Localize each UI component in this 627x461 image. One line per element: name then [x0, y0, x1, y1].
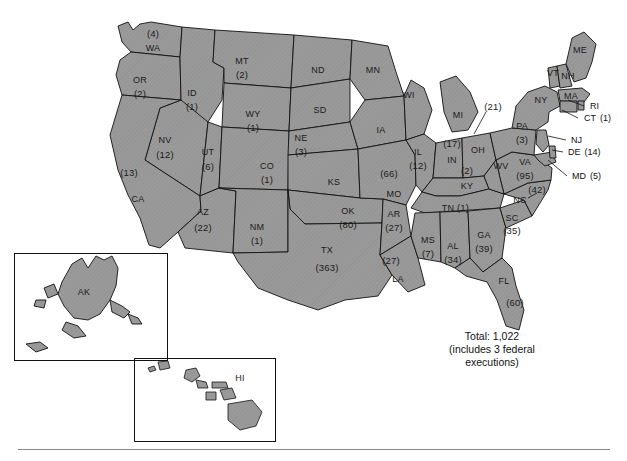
state-label-mt: MT — [235, 56, 248, 66]
state-WI — [404, 80, 432, 140]
total-note: (includes 3 federal executions) — [425, 343, 560, 369]
callout-de-count: (14) — [585, 147, 601, 157]
state-count-id: (1) — [186, 102, 198, 112]
state-label-ny: NY — [535, 95, 548, 105]
state-MI — [440, 76, 478, 132]
state-label-nh: NH — [561, 71, 574, 81]
state-IA — [350, 96, 406, 149]
state-count-wa: (4) — [147, 29, 159, 39]
state-count-ky: (2) — [461, 166, 473, 176]
state-label-il: IL — [414, 147, 422, 157]
state-label-in: IN — [447, 155, 456, 165]
state-count-mo: (66) — [380, 169, 398, 179]
callout-ct-label: CT — [584, 113, 596, 123]
state-label-ga: GA — [477, 230, 490, 240]
state-count-ga: (39) — [475, 244, 493, 254]
state-count-oh: (21) — [484, 102, 502, 112]
state-label-sd: SD — [314, 105, 327, 115]
state-count-co: (1) — [261, 175, 273, 185]
callout-nj-label: NJ — [571, 135, 582, 145]
state-count-ut: (6) — [202, 162, 214, 172]
inset-label-ak: AK — [78, 287, 90, 297]
state-MT — [213, 30, 294, 88]
state-count-ms: (7) — [422, 249, 434, 259]
state-count-nv: (12) — [156, 150, 174, 160]
state-count-ca: (13) — [120, 168, 138, 178]
state-label-ky: KY — [461, 181, 473, 191]
state-count-fl: (60) — [506, 298, 524, 308]
state-label-nc: NC — [513, 195, 526, 205]
callout-ri: RI — [590, 101, 599, 111]
callout-de: DE(14) — [568, 147, 601, 157]
total-label: Total: 1,022 — [425, 330, 560, 343]
callout-nj: NJ — [571, 135, 582, 145]
state-count-in: (17) — [443, 139, 461, 149]
state-label-va: VA — [519, 157, 531, 167]
state-label-vt: VT — [547, 68, 559, 78]
state-label-ma: MA — [564, 91, 578, 101]
state-label-wi: WI — [403, 90, 414, 100]
state-count-va: (95) — [516, 171, 534, 181]
state-FL — [455, 258, 524, 330]
footer-rule — [18, 449, 610, 450]
state-label-wy: WY — [246, 109, 261, 119]
inset-label-hi: HI — [235, 373, 244, 383]
state-count-nm: (1) — [251, 236, 263, 246]
figure-root: WA(4)OR(2)ID(1)MT(2)WY(1)NV(12)UT(6)CO(1… — [0, 0, 627, 461]
state-label-nv: NV — [159, 135, 172, 145]
state-label-ut: UT — [202, 147, 214, 157]
state-count-mt: (2) — [236, 70, 248, 80]
state-count-la: (27) — [382, 256, 400, 266]
leader-nj — [548, 136, 566, 140]
state-CO — [219, 127, 289, 190]
state-label-pa: PA — [516, 121, 528, 131]
callout-ct: CT(1) — [584, 113, 611, 123]
state-count-or: (2) — [134, 89, 146, 99]
state-label-id: ID — [187, 88, 196, 98]
callout-md-label: MD — [572, 171, 586, 181]
state-label-mi: MI — [453, 110, 463, 120]
state-NJ — [536, 130, 549, 152]
callout-md: MD(5) — [572, 171, 601, 181]
callout-ct-count: (1) — [600, 113, 611, 123]
state-label-nd: ND — [311, 65, 324, 75]
state-label-al: AL — [447, 241, 458, 251]
state-label-co: CO — [260, 161, 274, 171]
state-label-ca: CA — [132, 194, 145, 204]
hawaii-inset-frame — [134, 358, 276, 442]
state-label-ia: IA — [377, 125, 386, 135]
state-label-ok: OK — [341, 206, 354, 216]
state-label-fl: FL — [499, 276, 510, 286]
state-label-la: LA — [392, 274, 403, 284]
alaska-inset-frame — [14, 253, 168, 361]
state-count-sc: (35) — [503, 226, 521, 236]
state-count-ar: (27) — [385, 223, 403, 233]
state-label-mo: MO — [387, 189, 402, 199]
state-label-wv: WV — [494, 161, 509, 171]
state-label-ks: KS — [328, 177, 340, 187]
total-block: Total: 1,022 (includes 3 federal executi… — [425, 330, 560, 369]
state-count-tx: (363) — [315, 263, 338, 273]
callout-md-count: (5) — [590, 171, 601, 181]
state-label-mn: MN — [366, 65, 380, 75]
state-label-ms: MS — [421, 235, 435, 245]
callout-ri-label: RI — [590, 101, 599, 111]
state-count-al: (34) — [444, 255, 462, 265]
state-DE — [549, 146, 556, 158]
state-label-ne: NE — [295, 133, 308, 143]
state-label-tn: TN — [442, 203, 454, 213]
state-label-ar: AR — [388, 209, 401, 219]
state-label-az: AZ — [197, 207, 209, 217]
state-label-me: ME — [573, 45, 587, 55]
state-count-nc: (42) — [528, 185, 546, 195]
state-label-tx: TX — [321, 245, 333, 255]
callout-de-label: DE — [568, 147, 581, 157]
state-count-wy: (1) — [247, 123, 259, 133]
state-count-tn: (1) — [457, 203, 469, 213]
state-OR — [116, 52, 181, 100]
state-label-sc: SC — [506, 213, 519, 223]
state-count-ok: (80) — [339, 220, 357, 230]
state-label-wa: WA — [146, 43, 161, 53]
state-count-az: (22) — [194, 223, 212, 233]
state-label-nm: NM — [250, 222, 264, 232]
